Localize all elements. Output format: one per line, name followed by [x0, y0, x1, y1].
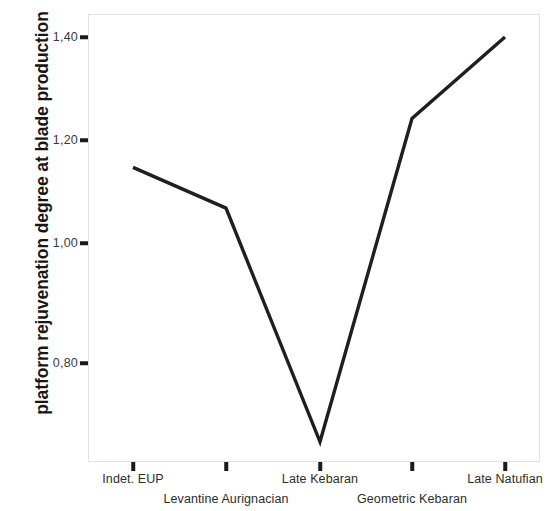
y-axis-tick-label-group: 1,40 1,20 1,00 0,80: [28, 0, 78, 511]
x-tick-label-levantine-aurignacian: Levantine Aurignacian: [163, 492, 288, 506]
x-tick-mark: [318, 462, 322, 471]
y-tick-label: 1,40: [32, 30, 78, 44]
x-tick-mark: [224, 462, 228, 471]
y-tick-label: 1,00: [32, 236, 78, 250]
plot-area: [88, 14, 540, 462]
x-tick-mark: [131, 462, 135, 471]
line-chart: platform rejuvenation degree at blade pr…: [0, 0, 552, 511]
x-tick-mark: [503, 462, 507, 471]
y-tick-label: 1,20: [32, 133, 78, 147]
x-tick-label-geometric-kebaran: Geometric Kebaran: [357, 492, 467, 506]
x-tick-label-late-kebaran: Late Kebaran: [282, 472, 358, 486]
x-tick-mark: [410, 462, 414, 471]
x-tick-label-late-natufian: Late Natufian: [467, 472, 543, 486]
x-tick-label-indet-eup: Indet. EUP: [102, 472, 163, 486]
y-tick-label: 0,80: [32, 356, 78, 370]
